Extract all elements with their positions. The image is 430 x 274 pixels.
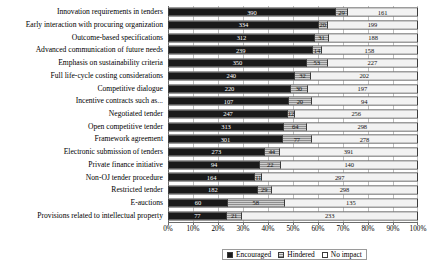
- segment-value-label: 199: [368, 22, 377, 29]
- segment-encouraged: 182: [169, 187, 258, 194]
- segment-value-label: 247: [223, 111, 232, 118]
- bar-row: 35053227: [168, 57, 418, 70]
- segment-value-label: 64: [292, 123, 298, 130]
- segment-encouraged: 350: [169, 60, 307, 67]
- category-label: Framework agreement: [0, 133, 166, 146]
- bar-track: 39029161: [168, 8, 418, 17]
- bar-row: 24032202: [168, 70, 418, 83]
- x-tick-label: 10%: [186, 226, 199, 233]
- segment-value-label: 140: [344, 162, 353, 169]
- category-label: Full life-cycle costing considerations: [0, 70, 166, 83]
- x-axis: 0%10%20%30%40%50%60%70%80%90%100%: [168, 222, 418, 238]
- segment-hindered: 20: [319, 22, 328, 29]
- bar-row: 24712256: [168, 108, 418, 121]
- segment-value-label: 301: [221, 136, 230, 143]
- x-tick-label: 30%: [236, 226, 249, 233]
- segment-encouraged: 313: [169, 123, 284, 130]
- bar-row: 1072094: [168, 95, 418, 108]
- segment-no-impact: 199: [328, 22, 417, 29]
- bar-track: 24032202: [168, 71, 418, 80]
- segment-value-label: 32: [299, 73, 305, 80]
- bar-track: 33420199: [168, 21, 418, 30]
- segment-value-label: 391: [344, 149, 353, 156]
- segment-hindered: 14: [313, 47, 321, 54]
- legend-label: Encouraged: [236, 251, 271, 258]
- segment-value-label: 77: [294, 136, 300, 143]
- bar-row: 31231188: [168, 31, 418, 44]
- legend-item[interactable]: Encouraged: [227, 251, 271, 258]
- bar-row: 16411297: [168, 171, 418, 184]
- bar-row: 22030197: [168, 82, 418, 95]
- segment-value-label: 233: [325, 212, 334, 219]
- segment-value-label: 20: [320, 22, 326, 29]
- x-tick-label: 40%: [261, 226, 274, 233]
- segment-value-label: 60: [195, 200, 201, 207]
- segment-value-label: 312: [237, 35, 246, 42]
- x-tick-label: 20%: [211, 226, 224, 233]
- bar-row: 33420199: [168, 19, 418, 32]
- segment-value-label: 158: [365, 47, 374, 54]
- segment-value-label: 278: [360, 136, 369, 143]
- x-tick-label: 60%: [311, 226, 324, 233]
- segment-value-label: 313: [221, 123, 230, 130]
- bar-track: 6058135: [168, 198, 418, 207]
- segment-encouraged: 240: [169, 72, 295, 79]
- segment-value-label: 390: [247, 9, 256, 16]
- segment-value-label: 239: [236, 47, 245, 54]
- segment-value-label: 44: [269, 149, 275, 156]
- segment-value-label: 188: [368, 35, 377, 42]
- segment-no-impact: 140: [281, 161, 417, 168]
- segment-value-label: 182: [208, 187, 217, 194]
- category-label: Private finance initiative: [0, 158, 166, 171]
- segment-value-label: 227: [368, 60, 377, 67]
- segment-no-impact: 135: [285, 199, 417, 206]
- bar-row: 39029161: [168, 6, 418, 19]
- legend-swatch-icon: [227, 252, 233, 258]
- x-tick-label: 90%: [386, 226, 399, 233]
- legend-item[interactable]: No impact: [322, 251, 362, 258]
- segment-no-impact: 298: [307, 123, 417, 130]
- segment-value-label: 22: [267, 162, 273, 169]
- category-label: Outcome-based specifications: [0, 31, 166, 44]
- category-label: E-auctions: [0, 197, 166, 210]
- category-label: Electronic submission of tenders: [0, 146, 166, 159]
- segment-value-label: 197: [358, 85, 367, 92]
- x-tick-label: 80%: [361, 226, 374, 233]
- segment-hindered: 22: [260, 161, 281, 168]
- legend-item[interactable]: Hindered: [278, 251, 315, 258]
- bar-row: 23914158: [168, 44, 418, 57]
- segment-value-label: 31: [318, 35, 324, 42]
- segment-no-impact: 161: [348, 9, 417, 16]
- segment-hindered: 77: [283, 136, 312, 143]
- segment-no-impact: 256: [295, 110, 417, 117]
- chart-legend: EncouragedHinderedNo impact: [222, 249, 367, 260]
- segment-value-label: 94: [211, 162, 217, 169]
- segment-value-label: 58: [253, 200, 259, 207]
- segment-no-impact: 233: [242, 212, 417, 219]
- segment-no-impact: 188: [329, 34, 417, 41]
- segment-value-label: 297: [335, 174, 344, 181]
- category-label: Open competitive tender: [0, 120, 166, 133]
- category-label: Emphasis on sustainability criteria: [0, 57, 166, 70]
- category-label: Non-OJ tender procedure: [0, 171, 166, 184]
- category-label: Advanced communication of future needs: [0, 44, 166, 57]
- segment-hindered: 32: [295, 72, 312, 79]
- plot-area: 3902916133420199312311882391415835053227…: [168, 6, 418, 222]
- category-label: Negotiated tender: [0, 108, 166, 121]
- segment-encouraged: 301: [169, 136, 283, 143]
- category-label: Innovation requirements in tenders: [0, 6, 166, 19]
- segment-encouraged: 390: [169, 9, 336, 16]
- segment-encouraged: 94: [169, 161, 260, 168]
- bar-row: 9422140: [168, 158, 418, 171]
- segment-value-label: 298: [358, 123, 367, 130]
- segment-value-label: 11: [255, 174, 261, 181]
- bar-track: 1072094: [168, 97, 418, 106]
- category-label: Early interaction with procuring organiz…: [0, 19, 166, 32]
- segment-hindered: 29: [258, 187, 272, 194]
- x-tick-label: 0%: [163, 226, 173, 233]
- segment-no-impact: 158: [322, 47, 417, 54]
- segment-value-label: 29: [338, 9, 344, 16]
- segment-hindered: 64: [284, 123, 308, 130]
- category-label: Competitive dialogue: [0, 82, 166, 95]
- segment-value-label: 220: [225, 85, 234, 92]
